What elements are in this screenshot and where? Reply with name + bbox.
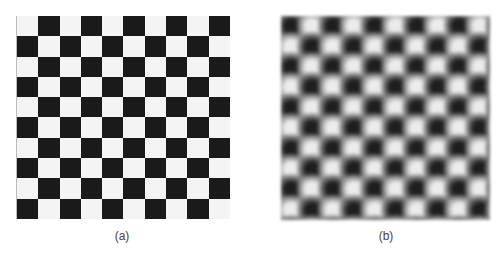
checker-cell	[81, 57, 102, 77]
checker-cell	[17, 16, 38, 36]
checker-cell	[145, 138, 166, 158]
checker-cell	[60, 138, 81, 158]
checker-cell	[123, 158, 144, 178]
blurred-checkerboard-image-b	[281, 16, 490, 220]
caption-b: (b)	[379, 229, 394, 243]
checker-cell	[60, 77, 81, 97]
checker-cell	[17, 178, 38, 198]
checker-cell	[166, 178, 187, 198]
checker-cell	[17, 57, 38, 77]
checker-cell	[17, 97, 38, 117]
checker-cell	[123, 138, 144, 158]
checker-cell	[123, 199, 144, 219]
checker-cell	[209, 138, 230, 158]
checker-cell	[123, 57, 144, 77]
checker-cell	[102, 16, 123, 36]
checker-cell	[60, 36, 81, 56]
checker-cell	[81, 158, 102, 178]
checker-cell	[38, 57, 59, 77]
checker-cell	[102, 57, 123, 77]
checker-cell	[123, 16, 144, 36]
checker-cell	[209, 199, 230, 219]
checker-cell	[187, 97, 208, 117]
checker-cell	[187, 158, 208, 178]
checker-cell	[209, 97, 230, 117]
checker-cell	[145, 16, 166, 36]
checker-cell	[145, 36, 166, 56]
checker-cell	[145, 158, 166, 178]
checker-cell	[166, 158, 187, 178]
checker-cell	[123, 77, 144, 97]
checker-cell	[102, 199, 123, 219]
checker-cell	[209, 178, 230, 198]
checker-cell	[17, 117, 38, 137]
checker-cell	[38, 36, 59, 56]
checker-cell	[38, 199, 59, 219]
checker-cell	[81, 199, 102, 219]
checker-cell	[187, 178, 208, 198]
caption-a: (a)	[115, 229, 130, 243]
checker-cell	[17, 158, 38, 178]
checker-cell	[123, 36, 144, 56]
checker-cell	[102, 36, 123, 56]
checker-cell	[38, 16, 59, 36]
checker-cell	[38, 117, 59, 137]
checker-cell	[123, 97, 144, 117]
checker-cell	[17, 138, 38, 158]
checker-cell	[187, 77, 208, 97]
checker-cell	[187, 117, 208, 137]
checker-cell	[38, 97, 59, 117]
checker-cell	[209, 117, 230, 137]
checker-cell	[81, 178, 102, 198]
checker-cell	[166, 97, 187, 117]
checker-cell	[17, 36, 38, 56]
checker-cell	[60, 16, 81, 36]
checker-cell	[166, 117, 187, 137]
checker-cell	[60, 117, 81, 137]
checker-cell	[123, 178, 144, 198]
checker-cell	[166, 16, 187, 36]
checker-cell	[209, 57, 230, 77]
checker-cell	[81, 36, 102, 56]
checker-cell	[81, 117, 102, 137]
checker-cell	[166, 138, 187, 158]
checker-cell	[187, 199, 208, 219]
checker-cell	[60, 158, 81, 178]
checker-cell	[187, 57, 208, 77]
checker-cell	[81, 16, 102, 36]
checker-cell	[60, 57, 81, 77]
checker-cell	[38, 178, 59, 198]
checkerboard-image-a	[16, 16, 230, 219]
checker-cell	[38, 158, 59, 178]
checker-cell	[81, 97, 102, 117]
checker-cell	[60, 199, 81, 219]
checker-cell	[102, 138, 123, 158]
checker-cell	[102, 117, 123, 137]
checker-cell	[209, 16, 230, 36]
checker-cell	[187, 36, 208, 56]
checker-cell	[209, 158, 230, 178]
checker-cell	[187, 16, 208, 36]
checker-cell	[166, 36, 187, 56]
checker-cell	[166, 199, 187, 219]
checker-cell	[38, 138, 59, 158]
checker-cell	[60, 178, 81, 198]
checker-cell	[38, 77, 59, 97]
checker-cell	[81, 77, 102, 97]
checker-cell	[187, 138, 208, 158]
checker-cell	[145, 117, 166, 137]
checker-cell	[145, 178, 166, 198]
checker-cell	[17, 77, 38, 97]
checker-cell	[60, 97, 81, 117]
checker-cell	[145, 57, 166, 77]
checker-cell	[166, 77, 187, 97]
checker-cell	[17, 199, 38, 219]
checker-cell	[209, 77, 230, 97]
checker-cell	[102, 97, 123, 117]
checker-cell	[145, 77, 166, 97]
checker-cell	[102, 178, 123, 198]
checker-cell	[209, 36, 230, 56]
checker-cell	[102, 158, 123, 178]
checker-cell	[102, 77, 123, 97]
checker-cell	[166, 57, 187, 77]
